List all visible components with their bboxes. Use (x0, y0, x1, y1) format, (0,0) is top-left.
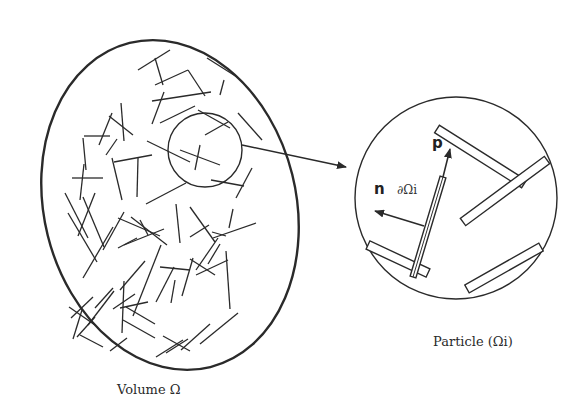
fiber-segment (109, 116, 133, 135)
volume-group (7, 12, 332, 397)
fiber-segment (238, 113, 262, 140)
vector-p-arrow-icon (443, 149, 450, 177)
fiber-segment (208, 244, 220, 264)
fiber-segment (83, 227, 113, 278)
fiber-segment (236, 168, 252, 198)
fiber-segment (213, 223, 256, 238)
fiber-segment (180, 150, 220, 165)
fiber-segment (120, 302, 148, 308)
fiber-segment (181, 324, 210, 350)
fiber-segment (137, 158, 138, 197)
fiber-segment (155, 70, 188, 85)
fiber-segment (155, 58, 163, 85)
particle-group (355, 97, 557, 299)
fiber-segment (138, 50, 170, 70)
fiber-segment (106, 139, 117, 155)
volume-caption: Volume Ω (117, 382, 180, 397)
fiber-segment (126, 307, 155, 324)
particle-boundary (355, 97, 557, 299)
fiber-segment (182, 258, 193, 296)
fiber-segment (156, 267, 174, 302)
fiber-segment (124, 229, 164, 245)
fiber-segment (229, 209, 233, 228)
fiber-segment (99, 113, 112, 145)
connector-arrow-icon (242, 145, 346, 167)
boundary-label: ∂Ωi (397, 183, 417, 197)
fiber-segment (80, 164, 84, 200)
fiber-segment (207, 58, 237, 77)
fiber-segment (131, 217, 167, 245)
fiber-segment (80, 335, 103, 347)
particle-rods (366, 125, 550, 293)
fiber-segment (152, 92, 164, 124)
fiber-segment (171, 280, 175, 303)
vector-n-arrow-icon (375, 211, 424, 226)
fiber-segment (114, 155, 152, 162)
fiber-segment (77, 317, 95, 337)
vector-n-label: n (374, 180, 385, 198)
fiber-segment (190, 225, 209, 237)
fiber-segment (103, 212, 124, 250)
fiber-rod (465, 243, 543, 293)
fiber-segment (176, 204, 180, 243)
fiber-segment (146, 183, 186, 204)
fiber-segment (133, 245, 161, 316)
fiber-segment (121, 103, 124, 141)
fiber-segment (112, 158, 122, 200)
fiber-segment (190, 207, 215, 242)
fiber-segment (160, 267, 190, 270)
fiber-suspension-diagram (0, 0, 586, 413)
fiber-segment (220, 80, 224, 95)
fiber-segment (188, 70, 205, 96)
fiber-segment (123, 320, 155, 338)
zoom-region-circle (168, 113, 242, 187)
fiber-segment (156, 340, 183, 357)
fiber-segment (83, 197, 104, 247)
fiber-segment (226, 251, 230, 309)
volume-fibers (65, 50, 262, 357)
particle-caption: Particle (Ωi) (433, 334, 513, 349)
fiber-segment (205, 122, 228, 135)
vector-p-label: p (432, 134, 443, 152)
fiber-segment (160, 106, 195, 123)
